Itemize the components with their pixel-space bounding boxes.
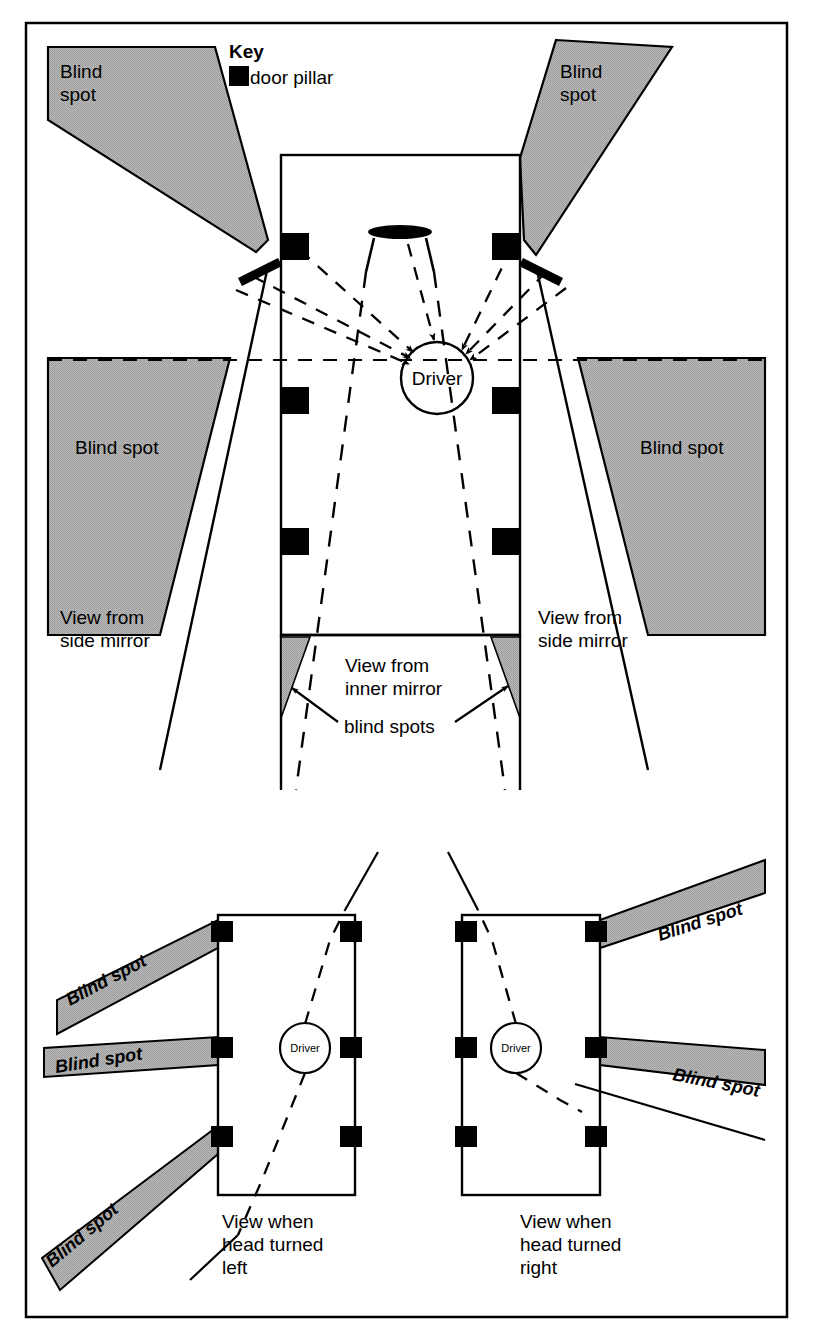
- leader-line-head-right-upper: [448, 852, 478, 910]
- head-left-caption-line3: left: [222, 1257, 248, 1278]
- door-pillar-rear-left: [281, 528, 309, 555]
- pillar-head-right-mid-left: [455, 1037, 477, 1058]
- door-pillar-front-right: [492, 233, 520, 260]
- head-right-blind-spot-bands: [600, 860, 765, 1085]
- head-left-band-3: [42, 1126, 218, 1290]
- view-inner-mirror-line1: View from: [345, 655, 429, 676]
- blind-spot-side-left-label: Blind spot: [75, 437, 159, 458]
- side-mirror-right: [521, 262, 561, 282]
- blind-spot-diagram: Blind spot Blind spot Blind spot Blind s…: [0, 0, 814, 1344]
- leader-line-head-left-upper: [345, 852, 378, 910]
- view-side-mirror-left-line2: side mirror: [60, 630, 150, 651]
- pillar-head-right-rear-left: [455, 1126, 477, 1147]
- pillar-head-right-mid-right: [585, 1037, 607, 1058]
- inner-mirror-icon: [368, 225, 432, 239]
- pillar-head-right-front-right: [585, 921, 607, 942]
- driver-label-head-right: Driver: [501, 1042, 531, 1054]
- blind-spot-front-right-label-line1: Blind: [560, 61, 602, 82]
- driver-label-main: Driver: [412, 368, 463, 389]
- door-pillar-mid-right: [492, 387, 520, 414]
- view-side-mirror-right-line2: side mirror: [538, 630, 628, 651]
- blind-spot-side-left-region: [48, 358, 230, 635]
- head-right-caption-line1: View when: [520, 1211, 612, 1232]
- key-title: Key: [229, 41, 264, 62]
- figure-page: Blind spot Blind spot Blind spot Blind s…: [0, 0, 814, 1344]
- head-left-caption-line2: head turned: [222, 1234, 323, 1255]
- blind-spot-side-right-label: Blind spot: [640, 437, 724, 458]
- rear-blind-spots-label: blind spots: [344, 716, 435, 737]
- blind-spot-front-left-label-line1: Blind: [60, 61, 102, 82]
- rear-blind-spot-triangle-left: [281, 637, 310, 718]
- blind-spot-front-left-label-line2: spot: [60, 84, 97, 105]
- door-pillar-front-left: [281, 233, 309, 260]
- pillar-head-right-rear-right: [585, 1126, 607, 1147]
- head-right-caption-line2: head turned: [520, 1234, 621, 1255]
- door-pillar-swatch-icon: [229, 66, 249, 86]
- pillar-head-left-mid-right: [340, 1037, 362, 1058]
- leader-arrow-blind-spot-left: [292, 688, 338, 722]
- pillar-head-right-front-left: [455, 921, 477, 942]
- pillar-head-left-rear-right: [340, 1126, 362, 1147]
- rear-blind-spot-triangle-right: [491, 637, 520, 718]
- head-left-band-1: [57, 920, 218, 1034]
- key-door-pillar-label: door pillar: [250, 67, 334, 88]
- blind-spot-side-right-region: [578, 358, 765, 635]
- door-pillar-rear-right: [492, 528, 520, 555]
- blind-spot-front-right-label-line2: spot: [560, 84, 597, 105]
- view-inner-mirror-line2: inner mirror: [345, 678, 443, 699]
- view-side-mirror-left-line1: View from: [60, 607, 144, 628]
- door-pillar-mid-left: [281, 387, 309, 414]
- leader-arrow-blind-spot-right: [455, 686, 508, 722]
- view-side-mirror-right-line1: View from: [538, 607, 622, 628]
- pillar-head-left-front-left: [211, 921, 233, 942]
- pillar-head-left-front-right: [340, 921, 362, 942]
- pillar-head-left-mid-left: [211, 1037, 233, 1058]
- head-left-caption-line1: View when: [222, 1211, 314, 1232]
- pillar-head-left-rear-left: [211, 1126, 233, 1147]
- head-right-caption-line3: right: [520, 1257, 558, 1278]
- driver-label-head-left: Driver: [290, 1042, 320, 1054]
